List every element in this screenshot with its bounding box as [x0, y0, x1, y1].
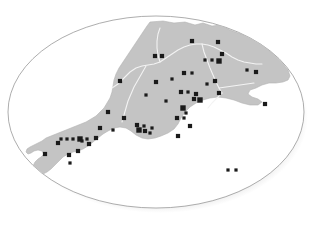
site-marker: site-34 — [143, 129, 147, 133]
site-marker: site-04 — [153, 54, 157, 58]
site-marker: site-48 — [43, 152, 47, 156]
site-marker: site-26 — [122, 116, 126, 120]
site-marker: site-56 — [144, 93, 147, 96]
site-marker: site-23 — [180, 105, 185, 110]
site-marker: site-14 — [154, 80, 158, 84]
site-marker: site-57 — [164, 99, 167, 102]
site-marker: site-03 — [220, 52, 224, 56]
site-marker: site-29 — [188, 124, 192, 128]
site-marker: site-15 — [213, 79, 217, 83]
site-marker: site-36 — [148, 131, 151, 134]
site-marker: site-25 — [106, 110, 110, 114]
site-marker: site-39 — [65, 137, 68, 140]
site-marker: site-10 — [190, 71, 193, 74]
site-marker: site-46 — [80, 139, 83, 142]
site-marker: site-18 — [194, 92, 198, 96]
site-marker: site-49 — [67, 153, 71, 157]
site-marker: site-37 — [176, 134, 180, 138]
site-marker: site-42 — [85, 137, 88, 140]
site-marker: site-20 — [192, 97, 196, 101]
site-marker: site-12 — [254, 70, 258, 74]
site-marker: site-24 — [184, 111, 187, 114]
site-marker: site-50 — [76, 149, 80, 153]
site-marker: site-47 — [87, 142, 91, 146]
site-marker: site-13 — [118, 79, 122, 83]
site-marker: site-07 — [210, 58, 213, 61]
site-marker: site-05 — [160, 54, 164, 58]
site-marker: site-22 — [263, 102, 267, 106]
site-marker: site-44 — [111, 128, 114, 131]
site-marker: site-16 — [179, 90, 183, 94]
site-marker: site-40 — [71, 137, 74, 140]
site-marker: site-31 — [135, 123, 139, 127]
site-marker: site-51 — [68, 161, 71, 164]
site-marker: site-28 — [182, 116, 185, 119]
site-marker: site-02 — [216, 40, 220, 44]
site-marker: site-38 — [59, 137, 62, 140]
site-marker: site-55 — [205, 82, 208, 85]
site-marker: site-35 — [150, 126, 153, 129]
site-marker: site-27 — [175, 116, 179, 120]
distribution-map: site-01site-02site-03site-04site-05site-… — [0, 0, 313, 229]
site-marker: site-09 — [182, 71, 186, 75]
site-marker: site-01 — [190, 39, 194, 43]
site-marker: site-54 — [170, 77, 173, 80]
site-marker: site-17 — [186, 90, 189, 93]
site-marker: site-52 — [226, 168, 229, 171]
site-marker: site-32 — [142, 124, 145, 127]
map-figure: site-01site-02site-03site-04site-05site-… — [0, 0, 313, 229]
site-marker: site-08 — [216, 58, 221, 63]
site-marker: site-19 — [217, 91, 221, 95]
site-marker: site-43 — [94, 136, 98, 140]
site-marker: site-30 — [98, 126, 102, 130]
site-marker: site-11 — [245, 68, 248, 71]
site-marker: site-45 — [56, 141, 60, 145]
site-marker: site-21 — [197, 97, 202, 102]
site-marker: site-33 — [136, 127, 141, 132]
site-marker: site-53 — [234, 168, 237, 171]
site-marker: site-06 — [203, 58, 206, 61]
